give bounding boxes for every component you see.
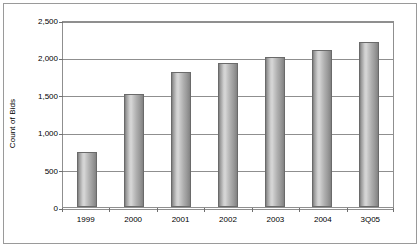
y-tick-label: 1,000 xyxy=(20,129,58,138)
bar-slot xyxy=(204,22,251,207)
bar xyxy=(171,72,191,207)
chart-figure: Count of Bids 05001,0001,5002,0002,500 1… xyxy=(0,0,420,247)
y-axis-tick-labels: 05001,0001,5002,0002,500 xyxy=(20,0,58,247)
x-tick-mark xyxy=(62,208,63,212)
y-tick-label: 500 xyxy=(20,166,58,175)
x-tick-label: 1999 xyxy=(77,215,95,224)
y-tick-label: 1,500 xyxy=(20,91,58,100)
bar xyxy=(77,152,97,207)
bar-slot xyxy=(252,22,299,207)
bar xyxy=(218,63,238,207)
y-axis-title-text: Count of Bids xyxy=(9,99,18,148)
x-tick-mark xyxy=(347,208,348,212)
x-tick-mark xyxy=(157,208,158,212)
x-tick-mark xyxy=(299,208,300,212)
plot-area xyxy=(62,21,394,208)
bar-series xyxy=(63,22,393,207)
bar-slot xyxy=(299,22,346,207)
bar xyxy=(265,57,285,207)
y-axis-title: Count of Bids xyxy=(6,0,20,247)
x-tick-mark xyxy=(252,208,253,212)
x-tick-label: 2003 xyxy=(267,215,285,224)
x-tick-mark xyxy=(109,208,110,212)
y-tick-label: 0 xyxy=(20,204,58,213)
bar-slot xyxy=(110,22,157,207)
bar-slot xyxy=(157,22,204,207)
x-axis: 1999200020012002200320043Q05 xyxy=(62,208,394,230)
x-tick-mark xyxy=(393,208,394,212)
x-tick-label: 3Q05 xyxy=(360,215,380,224)
bar-slot xyxy=(346,22,393,207)
x-tick-label: 2004 xyxy=(314,215,332,224)
y-tick-label: 2,500 xyxy=(20,17,58,26)
y-tick-label: 2,000 xyxy=(20,54,58,63)
bar-slot xyxy=(63,22,110,207)
x-tick-label: 2000 xyxy=(124,215,142,224)
x-tick-label: 2002 xyxy=(219,215,237,224)
x-tick-mark xyxy=(204,208,205,212)
bar xyxy=(312,50,332,207)
bar xyxy=(124,94,144,207)
bar xyxy=(359,42,379,207)
x-tick-label: 2001 xyxy=(172,215,190,224)
